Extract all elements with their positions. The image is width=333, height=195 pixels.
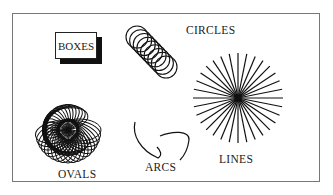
starburst-center (235, 95, 241, 101)
ovals-label: OVALS (58, 168, 96, 180)
ovals-group (33, 99, 103, 165)
arc-left (134, 122, 160, 158)
circles-label: CIRCLES (186, 24, 235, 36)
circles-group (126, 26, 177, 78)
arcs-label: ARCS (145, 161, 176, 173)
figure: BOXES CIRCLES OVALS ARCS LINES (0, 0, 333, 195)
arcs-group (134, 122, 189, 160)
lines-label: LINES (219, 153, 253, 165)
arc-right (160, 132, 189, 160)
lines-group (193, 53, 283, 143)
